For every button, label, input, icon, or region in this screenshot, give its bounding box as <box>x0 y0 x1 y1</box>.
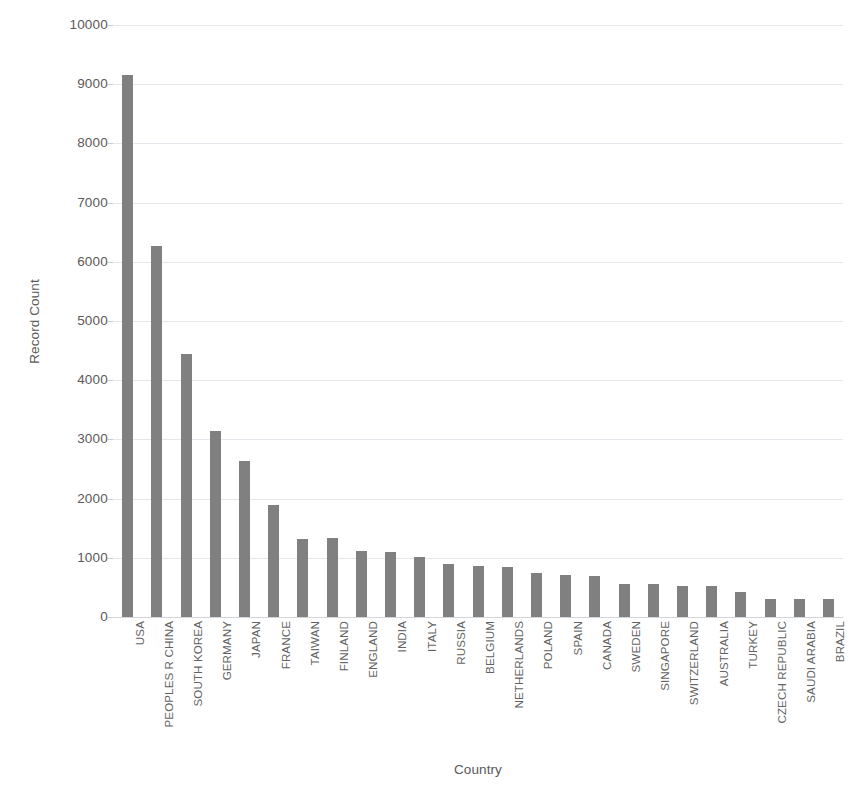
x-axis-tick-label: ITALY <box>425 621 439 751</box>
bar[interactable] <box>735 592 746 617</box>
x-axis-tick-label: FINLAND <box>337 621 351 751</box>
x-axis-tick-label: USA <box>133 621 147 751</box>
x-axis-tick-label: JAPAN <box>249 621 263 751</box>
bar[interactable] <box>239 461 250 617</box>
bar[interactable] <box>473 566 484 618</box>
bar[interactable] <box>327 538 338 617</box>
y-axis-tick-label: 0 <box>46 610 108 624</box>
gridline <box>113 617 843 618</box>
x-axis-tick-label: CZECH REPUBLIC <box>775 621 789 751</box>
bar[interactable] <box>181 354 192 617</box>
bar[interactable] <box>414 557 425 617</box>
x-axis-tick-label: TAIWAN <box>308 621 322 751</box>
y-axis-tick-label: 6000 <box>46 255 108 269</box>
bar[interactable] <box>297 539 308 617</box>
bar[interactable] <box>210 431 221 617</box>
plot-area <box>113 25 843 617</box>
x-axis-title: Country <box>113 762 843 777</box>
bars-layer <box>113 25 843 617</box>
x-axis-tick-label: ENGLAND <box>366 621 380 751</box>
x-axis-tick-label: GERMANY <box>220 621 234 751</box>
bar[interactable] <box>268 505 279 617</box>
bar[interactable] <box>794 599 805 617</box>
bar[interactable] <box>765 599 776 617</box>
x-axis-tick-label: FRANCE <box>279 621 293 751</box>
x-axis-tick-label: AUSTRALIA <box>717 621 731 751</box>
y-axis-tick <box>108 617 113 618</box>
y-axis-tick-label: 1000 <box>46 551 108 565</box>
bar[interactable] <box>823 599 834 617</box>
x-axis-tick-label: TURKEY <box>746 621 760 751</box>
bar[interactable] <box>619 584 630 617</box>
x-axis-tick-label: SAUDI ARABIA <box>804 621 818 751</box>
x-axis-tick-label: POLAND <box>541 621 555 751</box>
bar[interactable] <box>589 576 600 617</box>
y-axis-tick-label: 9000 <box>46 77 108 91</box>
bar[interactable] <box>531 573 542 617</box>
x-axis-tick-label: SPAIN <box>571 621 585 751</box>
bar[interactable] <box>356 551 367 617</box>
bar[interactable] <box>677 586 688 617</box>
x-axis-tick-label: RUSSIA <box>454 621 468 751</box>
bar[interactable] <box>443 564 454 617</box>
x-axis-tick-label: SWEDEN <box>629 621 643 751</box>
y-axis-tick-label: 2000 <box>46 492 108 506</box>
x-axis-tick-label: SWITZERLAND <box>687 621 701 751</box>
y-axis-title-label: Record Count <box>27 279 42 364</box>
y-axis-tick-label: 8000 <box>46 137 108 151</box>
x-axis-tick-label: BRAZIL <box>833 621 847 751</box>
bar[interactable] <box>648 584 659 617</box>
x-axis-tick-label: NETHERLANDS <box>512 621 526 751</box>
bar[interactable] <box>560 575 571 617</box>
x-axis-tick-label: INDIA <box>395 621 409 751</box>
y-axis-tick-label: 5000 <box>46 314 108 328</box>
bar-chart: Record Count 010002000300040005000600070… <box>0 0 857 808</box>
x-axis-tick-label: BELGIUM <box>483 621 497 751</box>
x-axis-tick-label: CANADA <box>600 621 614 751</box>
bar[interactable] <box>706 586 717 617</box>
y-axis-tick-labels: 0100020003000400050006000700080009000100… <box>46 0 108 808</box>
bar[interactable] <box>122 75 133 617</box>
y-axis-tick-label: 10000 <box>46 18 108 32</box>
y-axis-tick-label: 4000 <box>46 373 108 387</box>
x-axis-tick-labels: USAPEOPLES R CHINASOUTH KOREAGERMANYJAPA… <box>113 621 843 751</box>
y-axis-tick-label: 3000 <box>46 433 108 447</box>
y-axis-tick-label: 7000 <box>46 196 108 210</box>
bar[interactable] <box>502 567 513 617</box>
y-axis-title: Record Count <box>24 25 44 617</box>
bar[interactable] <box>151 246 162 617</box>
x-axis-tick-label: SINGAPORE <box>658 621 672 751</box>
x-axis-tick-label: PEOPLES R CHINA <box>162 621 176 751</box>
x-axis-tick-label: SOUTH KOREA <box>191 621 205 751</box>
bar[interactable] <box>385 552 396 617</box>
